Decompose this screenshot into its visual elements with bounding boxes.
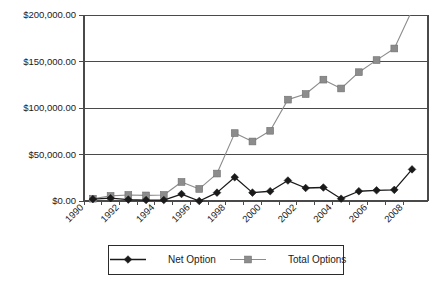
data-point-marker [178, 179, 185, 186]
y-tick-label: $0.00 [52, 195, 76, 206]
data-point-marker [391, 45, 398, 52]
data-point-marker [196, 186, 203, 193]
y-tick-label: $50,000.00 [28, 149, 76, 160]
legend-entry-label: Total Options [288, 254, 346, 265]
legend-swatch-marker [245, 256, 252, 263]
data-point-marker [355, 69, 362, 76]
chart-background [0, 0, 445, 286]
data-point-marker [214, 170, 221, 177]
chart-container: $0.00$50,000.00$100,000.00$150,000.00$20… [0, 0, 445, 286]
data-point-marker [267, 127, 274, 134]
line-chart: $0.00$50,000.00$100,000.00$150,000.00$20… [0, 0, 445, 286]
data-point-marker [373, 57, 380, 64]
data-point-marker [320, 76, 327, 83]
data-point-marker [285, 96, 292, 103]
y-tick-label: $100,000.00 [23, 102, 76, 113]
y-tick-label: $150,000.00 [23, 56, 76, 67]
data-point-marker [338, 85, 345, 92]
data-point-marker [302, 91, 309, 98]
y-tick-label: $200,000.00 [23, 9, 76, 20]
legend-entry-label: Net Option [168, 254, 216, 265]
data-point-marker [231, 130, 238, 137]
data-point-marker [249, 138, 256, 145]
